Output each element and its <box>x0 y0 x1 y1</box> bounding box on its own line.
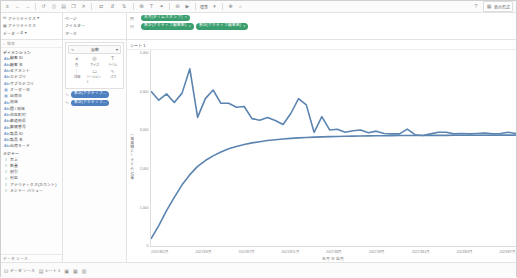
presentation-icon[interactable]: ▶ <box>184 3 191 10</box>
chevron-down-icon[interactable]: ▾ <box>189 25 191 28</box>
measure-names[interactable]: #メジャー バリュー <box>1 189 62 195</box>
chevron-down-icon[interactable]: ▾ <box>116 47 118 52</box>
date-field-icon: ▤ <box>4 94 8 99</box>
workbook-body: ⌕ 検索 ディメンション Abc顧客 IDAbc顧客 名AbcセグメントAbcカ… <box>1 40 516 262</box>
chart-series-0 <box>151 69 516 136</box>
sheet-icon: ▤ <box>39 268 44 274</box>
forward-icon[interactable]: → <box>24 3 31 10</box>
save-icon[interactable]: ⎙ <box>50 3 57 10</box>
plot-area[interactable] <box>150 50 516 247</box>
marks-label-button[interactable]: T ラベル <box>104 56 121 67</box>
chart-container: 集計(アクティブ顧客数) 5,0004,0003,0002,0001,0000 … <box>127 50 516 262</box>
line-icon: ∿ <box>65 100 69 105</box>
data-pane-search[interactable]: ⌕ 検索 <box>1 40 62 48</box>
clear-sheet-icon[interactable]: ✕ <box>80 3 87 10</box>
chevron-down-icon[interactable]: ▾ <box>211 3 218 10</box>
swap-rows-cols-icon[interactable]: ⇄ <box>96 3 106 10</box>
pan-icon[interactable]: ✥ <box>227 3 234 10</box>
chevron-down-icon[interactable]: ▾ <box>25 30 27 35</box>
new-sheet-icon[interactable]: ▣ <box>64 268 69 274</box>
new-worksheet-icon[interactable]: ▤ <box>60 3 67 10</box>
status-tab-datasource[interactable]: ⛁ データ ソース <box>4 268 35 274</box>
chart-series-1 <box>151 135 516 239</box>
zoom-icon[interactable]: ⌕ <box>237 3 244 10</box>
text-field-icon: Abc <box>4 132 8 137</box>
y-axis-title-label: 集計(アクティブ顧客数) <box>129 134 134 179</box>
marks-card-pill-1[interactable]: ∿ 集計(アクティブ… <box>65 91 124 98</box>
text-field-icon: Abc <box>4 113 8 118</box>
measure-record-count[interactable]: #アナリティクス(カウント) <box>1 182 62 188</box>
sort-descending-icon[interactable]: ⇅ <box>119 3 129 10</box>
field-city-label: 市区町村 <box>10 113 26 119</box>
measure-field-list: #売上#数量#割引#利益#アナリティクス(カウント)#メジャー バリュー <box>1 157 62 195</box>
search-input[interactable]: 検索 <box>7 41 15 46</box>
marks-card-pill-2-pill[interactable]: 集計(アクティブ… <box>71 100 110 107</box>
x-tick-3: 2021年11月 <box>281 249 298 257</box>
field-product-id-label: 製品 ID <box>10 132 23 138</box>
y-tick-2: 3,000 <box>140 129 149 133</box>
chevron-down-icon[interactable]: ▾ <box>185 16 187 19</box>
marks-detail-button[interactable]: ⁞ 詳細 <box>68 69 85 85</box>
field-country-label: 国 / 地域 <box>10 107 25 113</box>
text-field-icon: Abc <box>4 144 8 149</box>
x-tick-2: 2021年7月 <box>239 249 254 257</box>
search-icon[interactable]: ⌕ <box>17 30 19 35</box>
marks-size-button[interactable]: ◎ サイズ <box>86 56 103 67</box>
columns-pill-date[interactable]: 年月(タイムスタンプ) ▾ <box>141 15 190 22</box>
datasource-table-row[interactable]: ▤ アナリティクス <box>3 22 60 28</box>
number-field-icon: # <box>4 177 8 182</box>
marks-color-label: 色 <box>75 62 78 67</box>
back-icon[interactable]: ← <box>14 3 21 10</box>
rows-pill-measure-2[interactable]: 集計(アクティブ顧客数) ▾ <box>196 23 249 30</box>
chevron-down-icon[interactable]: ▾ <box>244 25 246 28</box>
main-toolbar: ≡ ← → ↺ ⎙ ▤ ❐ ✕ ⇄ ⇵ ⇅ ⊞ T ✦ ⊟ ▶ 標準 ▾ ✥ ⌕… <box>1 1 516 13</box>
undo-icon[interactable]: ↺ <box>40 3 47 10</box>
field-customer-id-label: 顧客 ID <box>10 56 23 62</box>
text-field-icon: Abc <box>4 69 8 74</box>
show-me-button[interactable]: ▦ 表示形式 <box>483 1 514 12</box>
datasource-name-row[interactable]: ⛁ アナリティクス ▾ <box>3 15 60 21</box>
y-tick-0: 5,000 <box>140 52 149 56</box>
y-tick-1: 4,000 <box>140 91 149 95</box>
marks-card-pill-1-pill[interactable]: 集計(アクティブ… <box>71 91 110 98</box>
rows-pill-measure-2-label: 集計(アクティブ顧客数) <box>199 24 241 28</box>
field-list: ディメンション Abc顧客 IDAbc顧客 名AbcセグメントAbcカテゴリAb… <box>1 48 62 254</box>
help-icon[interactable]: ? <box>473 3 480 10</box>
data-pane-footer: データ ソース <box>1 254 62 262</box>
duplicate-icon[interactable]: ❐ <box>70 3 77 10</box>
columns-shelf[interactable]: 列 年月(タイムスタンプ) ▾ <box>130 15 513 22</box>
new-dashboard-icon[interactable]: ▦ <box>73 268 78 274</box>
marks-path-button[interactable]: ∿ パス <box>104 69 121 85</box>
sort-ascending-icon[interactable]: ⇵ <box>109 3 116 10</box>
datasource-icon: ⛁ <box>4 268 8 274</box>
field-product-name-label: 製品 名 <box>10 138 23 144</box>
sort-icon[interactable]: ⇵ <box>20 30 23 35</box>
rows-pill-measure-1[interactable]: 集計(アクティブ顧客数) ▾ <box>141 23 194 30</box>
tableau-logo-icon[interactable]: ≡ <box>4 3 11 10</box>
data-pane-label: データ <box>3 30 15 36</box>
fit-dropdown[interactable]: 標準 <box>200 4 208 10</box>
mark-type-dropdown[interactable]: ∿ 自動 ▾ <box>68 45 121 54</box>
columns-shelf-label: 列 <box>130 15 139 21</box>
datasource-name: アナリティクス <box>8 15 36 21</box>
fixed-axis-icon[interactable]: ⊟ <box>174 3 181 10</box>
status-tab-datasource-label: データ ソース <box>10 268 35 273</box>
group-icon[interactable]: ⊞ <box>138 3 145 10</box>
x-axis-ticks: 2020年11月2021年3月2021年7月2021年11月2022年3月202… <box>150 247 516 256</box>
highlight-icon[interactable]: ✦ <box>158 3 165 10</box>
marks-tooltip-button[interactable]: ▭ ツールヒント <box>86 69 103 85</box>
y-tick-5: 0 <box>147 245 149 249</box>
marks-card-pill-2[interactable]: ∿ 集計(アクティブ… <box>65 100 124 107</box>
detail-icon: ⁞ <box>76 69 77 74</box>
marks-color-button[interactable]: ◕ 色 <box>68 56 85 67</box>
status-tab-sheet1[interactable]: ▤ シート 1 <box>39 268 60 274</box>
rows-shelf[interactable]: 行 集計(アクティブ顧客数) ▾ 集計(アクティブ顧客数) ▾ <box>130 23 513 30</box>
marks-path-label: パス <box>110 74 116 79</box>
toolbar-divider-4 <box>169 3 170 10</box>
label-icon: T <box>111 56 114 61</box>
number-field-icon: # <box>4 183 8 188</box>
measures-header: メジャー <box>1 150 62 157</box>
labels-icon[interactable]: T <box>148 3 155 10</box>
new-story-icon[interactable]: ▥ <box>82 268 87 274</box>
chevron-down-icon[interactable]: ▾ <box>37 15 39 20</box>
